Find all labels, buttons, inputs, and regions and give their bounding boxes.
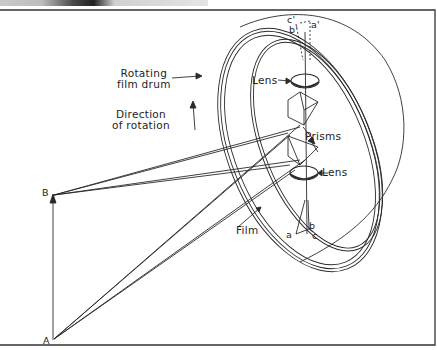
ray-A4 (54, 170, 295, 339)
dashed-ray-3 (300, 21, 310, 23)
label-image-c: c (312, 230, 318, 241)
label-rotating-film-drum: Rotating film drum (117, 68, 171, 90)
label-lens-bottom: Lens (322, 167, 347, 178)
label-point-B: B (42, 187, 49, 198)
frame-border (0, 10, 435, 345)
label-direction-of-rotation: Direction of rotation (112, 109, 170, 131)
ray-A2 (54, 135, 290, 339)
label-image-a: a (286, 229, 292, 240)
ray-B2 (54, 133, 288, 195)
label-image-b-prime: b' (289, 24, 298, 35)
label-lens-top: Lens (252, 75, 277, 86)
diagram-canvas (0, 0, 437, 350)
ray-B4 (54, 165, 290, 195)
drum-front-rim (185, 4, 414, 295)
label-image-a-prime: a' (311, 19, 320, 30)
lens-bottom (290, 166, 318, 180)
label-prisms: Prisms (305, 131, 341, 142)
label-point-A: A (43, 335, 50, 346)
prism-top (288, 92, 318, 125)
label-film: Film (236, 225, 259, 236)
